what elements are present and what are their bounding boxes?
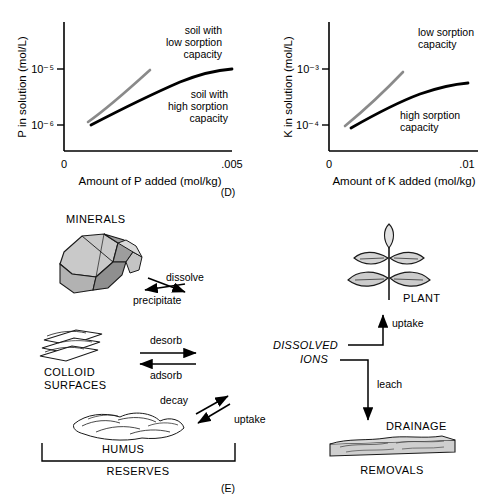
flow-label-uptake-plant: uptake [392,317,424,329]
flow-desorb: desorb [140,334,196,353]
flow-label-adsorb: adsorb [150,369,182,381]
y-tick-label-lower: 10⁻⁶ [31,119,54,131]
flow-label-precipitate: precipitate [133,294,182,306]
y-tick-label-upper: 10⁻⁵ [31,63,54,75]
y-axis-title: K in solution (mol/L) [282,36,294,138]
mineral-crystal-icon [60,234,142,293]
annotation-high-line-2: high sorption [168,100,228,112]
chart-phosphorus: 10⁻⁵ 10⁻⁶ 0 .005 P in solution (mol/L) A… [16,22,243,187]
flow-label-decay: decay [160,394,189,406]
flow-label-leach: leach [377,378,402,390]
node-label-plant: PLANT [403,292,440,304]
flow-label-dissolve: dissolve [166,271,204,283]
annotation-low-line-2: low sorption [166,36,222,48]
x-tick-label-min: 0 [326,158,332,170]
y-axis-title: P in solution (mol/L) [16,36,28,138]
series-low-sorption-curve [88,70,150,122]
x-tick-label-min: 0 [61,158,67,170]
node-label-dissolved-ions-line-1: DISSOLVED [273,339,338,351]
panel-label-d: (D) [221,186,236,198]
x-tick-label-max: .01 [459,158,474,170]
node-label-colloid-line-2: SURFACES [44,379,107,391]
node-label-dissolved-ions-line-2: IONS [300,353,328,365]
annotation-low-line-3: capacity [183,48,222,60]
colloid-sheets-icon [40,330,102,361]
annotation-low-sorption: low sorption capacity [418,26,474,50]
series-low-sorption-curve [345,72,403,126]
node-label-removals: REMOVALS [360,464,424,476]
plant-icon [348,224,430,300]
node-label-drainage: DRAINAGE [386,420,447,432]
node-label-humus: HUMUS [102,443,144,455]
annotation-low-sorption: soil with low sorption capacity [166,24,223,60]
flow-adsorb: adsorb [140,364,196,381]
humus-mass-icon [73,413,184,440]
x-tick-label-max: .005 [221,158,242,170]
y-tick-label-upper: 10⁻³ [297,63,319,75]
annotation-high-line-2: capacity [400,121,439,133]
flow-label-desorb: desorb [150,334,182,346]
annotation-low-line-2: capacity [418,38,457,50]
chart-potassium: 10⁻³ 10⁻⁴ 0 .01 K in solution (mol/L) Am… [282,22,478,187]
flow-label-uptake-humus: uptake [234,413,266,425]
annotation-high-sorption: high sorption capacity [400,109,460,133]
annotation-high-line-1: high sorption [400,109,460,121]
x-axis-title: Amount of K added (mol/kg) [332,175,475,187]
annotation-low-line-1: low sorption [418,26,474,38]
panel-label-e: (E) [221,482,235,494]
node-label-colloid-line-1: COLLOID [44,366,95,378]
x-axis-title: Amount of P added (mol/kg) [79,175,222,187]
annotation-low-line-1: soil with [185,24,223,36]
flow-precipitate: precipitate [133,284,185,306]
diagram-nutrient-cycle: MINERALS dissolve precipitate [40,213,455,477]
water-slab-icon [330,436,455,456]
annotation-high-line-3: capacity [189,112,228,124]
y-tick-label-lower: 10⁻⁴ [296,119,319,131]
annotation-high-sorption: soil with high sorption capacity [168,88,229,124]
figure-root: 10⁻⁵ 10⁻⁶ 0 .005 P in solution (mol/L) A… [0,0,495,497]
node-label-minerals: MINERALS [66,213,125,225]
reserves-bracket-label: RESERVES [107,465,170,477]
annotation-high-line-1: soil with [191,88,229,100]
flow-leach: leach [340,360,402,420]
flow-uptake-plant: uptake [348,315,424,345]
